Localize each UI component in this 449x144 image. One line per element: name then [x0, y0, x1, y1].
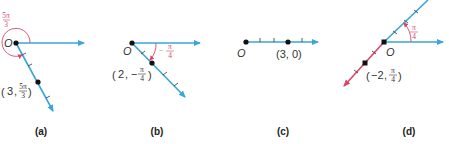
point-label: ( 2 , − π 4 ) — [112, 65, 152, 83]
svg-text:): ) — [28, 86, 32, 98]
svg-text:4: 4 — [168, 51, 172, 60]
svg-text:4: 4 — [391, 75, 395, 84]
terminal-ray — [16, 43, 53, 111]
svg-text:π: π — [391, 66, 395, 75]
svg-text:,: , — [14, 85, 17, 97]
svg-text:,: , — [384, 69, 387, 81]
pole-label: O — [386, 46, 395, 58]
pole-label: O — [237, 47, 246, 59]
svg-text:3: 3 — [21, 91, 25, 100]
panel-b: O − π 4 ( 2 , − π 4 ) (b) — [112, 40, 200, 137]
angle-label: π 4 — [410, 23, 418, 41]
caption-b: (b) — [151, 126, 164, 137]
pole-point — [382, 40, 387, 45]
svg-text:5π: 5π — [19, 82, 27, 91]
panel-c: O (3, 0) (c) — [237, 38, 318, 137]
svg-text:−2: −2 — [371, 69, 384, 81]
svg-text:π: π — [140, 65, 144, 74]
pole-point — [243, 39, 248, 44]
plotted-point — [35, 79, 40, 84]
svg-text:4: 4 — [140, 74, 144, 83]
angle-label-den: 3 — [4, 20, 8, 29]
svg-text:,: , — [125, 68, 128, 80]
svg-text:4: 4 — [412, 32, 416, 41]
caption-d: (d) — [403, 126, 416, 137]
caption-a: (a) — [35, 126, 47, 137]
svg-text:(: ( — [366, 70, 370, 82]
svg-text:(: ( — [1, 86, 5, 98]
panel-d: O π 4 ( −2 , π 4 ) (d) — [344, 0, 443, 137]
svg-text:−: − — [131, 68, 137, 80]
pole-label: O — [4, 37, 13, 49]
svg-text:3: 3 — [7, 85, 13, 97]
point-label: (3, 0) — [276, 48, 302, 60]
pole-point — [13, 40, 18, 45]
svg-text:π: π — [412, 23, 416, 32]
caption-c: (c) — [277, 126, 289, 137]
angle-label: − π 4 — [159, 42, 174, 60]
svg-text:π: π — [168, 42, 172, 51]
pole-label: O — [123, 45, 132, 57]
angle-arc — [150, 43, 156, 60]
panel-a: O 5π 3 ( 3 , 5π 3 ) (a) — [1, 11, 84, 137]
plotted-point — [149, 60, 154, 65]
plotted-point — [363, 61, 368, 66]
svg-text:): ) — [148, 69, 152, 81]
angle-label-num: 5π — [2, 11, 10, 20]
point-label: ( 3 , 5π 3 ) — [1, 82, 32, 100]
terminal-ray — [384, 0, 428, 42]
point-label: ( −2 , π 4 ) — [366, 66, 402, 84]
plotted-point — [285, 39, 290, 44]
svg-text:−: − — [159, 46, 163, 55]
angle-arc — [404, 23, 411, 42]
svg-text:2: 2 — [118, 68, 124, 80]
svg-text:): ) — [398, 70, 402, 82]
svg-text:(: ( — [112, 69, 116, 81]
polar-points-diagram: O 5π 3 ( 3 , 5π 3 ) (a) O − π — [0, 0, 449, 144]
